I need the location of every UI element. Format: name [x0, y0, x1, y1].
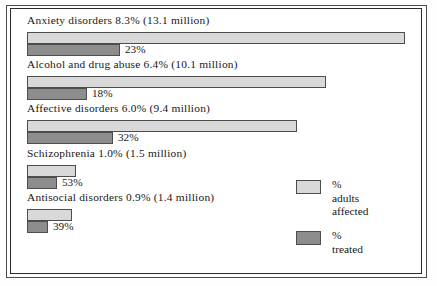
bar-affected — [27, 32, 405, 44]
bar-treated — [27, 177, 57, 189]
bar-value-treated: 39% — [53, 220, 74, 233]
category-label: Alcohol and drug abuse 6.4% (10.1 millio… — [27, 58, 238, 71]
chart-legend: % adults affected % treated — [296, 180, 416, 260]
plot-area: Anxiety disorders 8.3% (13.1 million) 23… — [10, 8, 422, 274]
category-label: Schizophrenia 1.0% (1.5 million) — [27, 147, 186, 160]
bar-treated — [27, 44, 120, 56]
bar-value-treated: 23% — [125, 43, 146, 56]
bar-treated — [27, 132, 113, 144]
chart-figure: Anxiety disorders 8.3% (13.1 million) 23… — [0, 0, 437, 286]
category-label: Anxiety disorders 8.3% (13.1 million) — [27, 14, 209, 27]
bar-value-treated: 53% — [62, 176, 83, 189]
bar-affected — [27, 76, 326, 88]
legend-label-affected: % adults affected — [332, 178, 368, 219]
category-label: Affective disorders 6.0% (9.4 million) — [27, 102, 210, 115]
bar-value-treated: 18% — [92, 87, 113, 100]
legend-label-treated: % treated — [332, 229, 363, 256]
legend-swatch-treated — [296, 231, 321, 245]
bar-value-treated: 32% — [118, 131, 139, 144]
category-label: Antisocial disorders 0.9% (1.4 million) — [27, 191, 214, 204]
bar-affected — [27, 120, 297, 132]
legend-swatch-affected — [296, 180, 321, 194]
bar-treated — [27, 221, 48, 233]
bar-treated — [27, 88, 87, 100]
